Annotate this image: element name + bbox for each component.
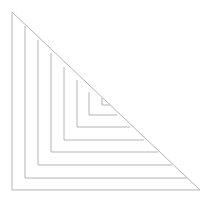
hypotenuse-line (12, 12, 200, 190)
triangle-4 (51, 53, 158, 152)
triangle-5 (64, 67, 144, 140)
nested-triangles-diagram (0, 0, 207, 201)
triangle-7 (89, 92, 117, 115)
triangle-6 (77, 80, 130, 127)
triangle-3 (38, 40, 172, 165)
